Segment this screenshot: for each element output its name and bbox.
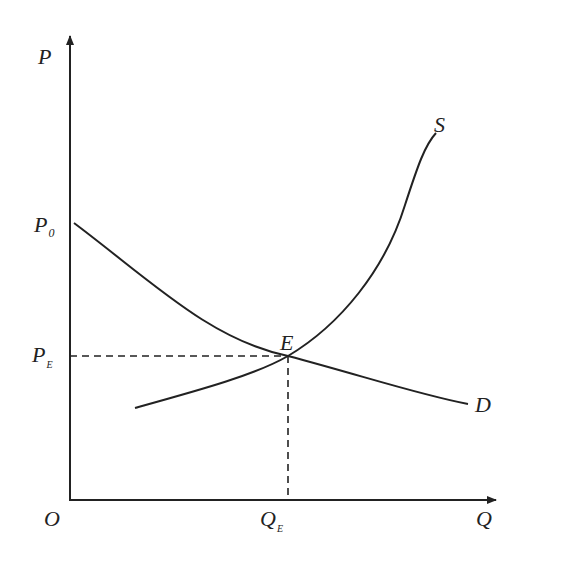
p0-label: P0 xyxy=(33,212,54,240)
demand-curve xyxy=(74,223,468,404)
y-axis-label: P xyxy=(37,44,51,69)
supply-demand-diagram: P Q O P0 PE QE E S D xyxy=(0,0,562,567)
supply-curve xyxy=(135,133,436,408)
pe-label: PE xyxy=(31,342,53,370)
equilibrium-label: E xyxy=(279,330,294,355)
supply-label: S xyxy=(434,112,445,137)
demand-label: D xyxy=(474,392,491,417)
qe-label: QE xyxy=(260,506,283,534)
origin-label: O xyxy=(44,506,60,531)
x-axis-label: Q xyxy=(476,506,492,531)
